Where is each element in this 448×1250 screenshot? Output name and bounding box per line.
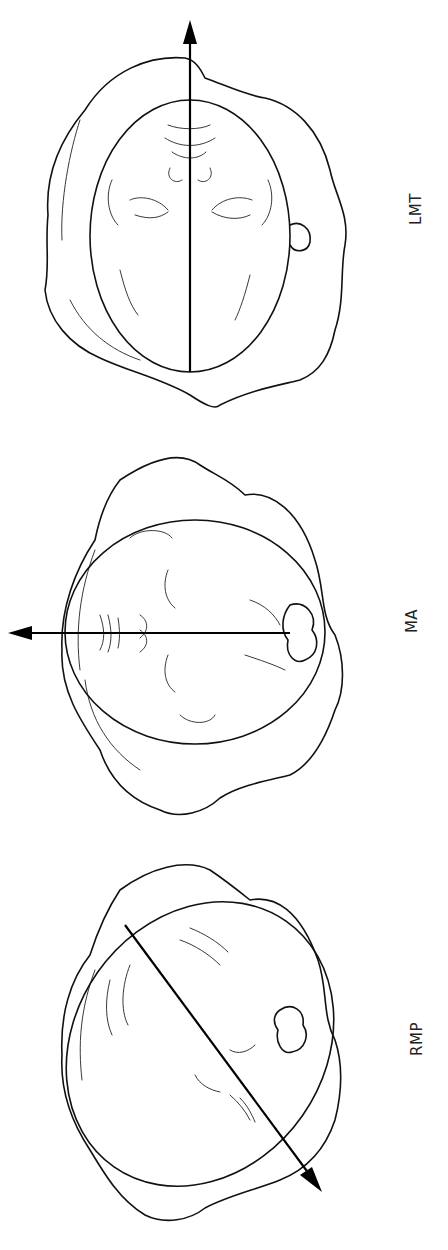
position-label-ma: MA — [403, 609, 421, 633]
panel-lmt: LMT — [0, 0, 448, 420]
position-label-lmt: LMT — [407, 193, 425, 225]
fetal-head-lmt-illustration — [0, 0, 448, 420]
panel-ma: MA — [0, 420, 448, 840]
fetal-head-ma-illustration — [0, 420, 448, 840]
panel-rmp: RMP — [0, 830, 448, 1250]
position-label-rmp: RMP — [408, 1022, 426, 1056]
fetal-head-rmp-illustration — [0, 830, 448, 1250]
